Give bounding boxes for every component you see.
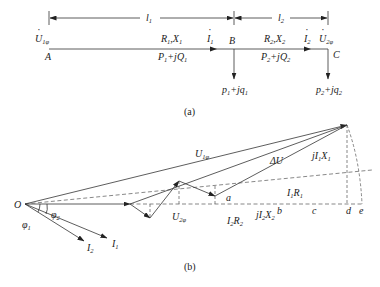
label-phi1: φ1 (22, 219, 31, 231)
svg-text:·: · (306, 24, 309, 35)
label-p2q2: P2+jQ2 (260, 51, 291, 63)
label-i2r2: I2R2 (226, 215, 244, 227)
label-origin: O (14, 199, 21, 210)
label-i1r1: I1R1 (286, 187, 303, 199)
label-r2x2: R2,X2 (263, 33, 286, 45)
label-load-b: p1+jq1 (221, 84, 248, 96)
figure-b-phasor: O φ1 φ2 I1 I2 U2φ U1φ ΔU jI1X1 I1R1 I2R2… (14, 125, 372, 273)
svg-text:·: · (38, 24, 41, 35)
arc-u1-to-e (347, 125, 362, 204)
point-d: d (346, 205, 352, 216)
phasor-i1r1 (179, 181, 215, 196)
label-i2-phasor: I2 (86, 242, 94, 254)
network-phasor-diagram: l1 l2 U1φ · A R1,X1 P1+jQ1 I1 · B R2,X2 … (0, 0, 380, 287)
label-u1-phasor: U1φ (195, 148, 209, 160)
angle-arc-phi1 (38, 204, 40, 212)
point-a: a (226, 192, 231, 203)
caption-a: (a) (184, 106, 195, 118)
label-load-c: p2+jq2 (315, 84, 343, 96)
label-r1x1: R1,X1 (160, 33, 182, 45)
label-l2: l2 (278, 12, 285, 24)
dashed-angle-line (25, 170, 372, 204)
svg-text:·: · (322, 24, 325, 35)
label-u2-phasor: U2φ (172, 211, 186, 223)
node-b: B (229, 35, 235, 46)
node-a: A (44, 51, 52, 62)
phasor-i1 (25, 204, 107, 238)
phasor-i2r2 (130, 204, 150, 218)
angle-arc-phi2 (46, 204, 47, 214)
point-b: b (277, 205, 282, 216)
point-c: c (312, 205, 317, 216)
label-l1: l1 (146, 12, 152, 24)
phasor-delta-u (130, 125, 347, 204)
point-e: e (359, 205, 364, 216)
label-delta-u: ΔU (269, 155, 284, 166)
figure-a-circuit: l1 l2 U1φ · A R1,X1 P1+jQ1 I1 · B R2,X2 … (35, 11, 343, 118)
label-p1q1: P1+jQ1 (157, 51, 187, 63)
current-arrow-i2 (304, 47, 311, 52)
label-ji1x1: jI1X1 (310, 150, 331, 162)
label-ji2x2: jI2X2 (254, 209, 275, 221)
label-phi2: φ2 (51, 209, 61, 221)
current-arrow-i1 (210, 47, 217, 52)
svg-text:·: · (209, 24, 212, 35)
node-c: C (333, 49, 340, 60)
label-i1-phasor: I1 (111, 238, 119, 250)
caption-b: (b) (184, 261, 196, 273)
